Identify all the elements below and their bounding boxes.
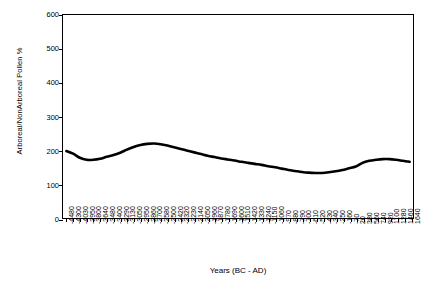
x-axis-tick-label: -520	[319, 210, 326, 224]
y-axis-tick-mark	[59, 220, 63, 221]
y-axis-tick-mark	[59, 117, 63, 118]
x-axis-tick-label: -610	[312, 210, 319, 224]
x-axis-tick-label: -3480	[109, 206, 116, 224]
y-axis-title: Arboreal/NonArboreal Pollen %	[14, 16, 26, 186]
y-axis-tick-label: 300	[46, 114, 59, 122]
x-axis-tick-label: -160	[346, 210, 353, 224]
x-axis-tick-label: 560	[373, 212, 380, 224]
y-axis-tick-label: 400	[46, 80, 59, 88]
y-axis-tick-label: 100	[46, 182, 59, 190]
x-axis-tick-label: 1640	[414, 208, 421, 224]
x-axis-tick-label: -4030	[82, 206, 89, 224]
x-axis-tick-label: -3400	[116, 206, 123, 224]
plot-area: 0100200300400500600	[62, 14, 414, 219]
y-axis-tick-label: 600	[46, 11, 59, 19]
x-axis-title: Years (BC - AD)	[62, 266, 414, 276]
x-axis-tick-label: 740	[380, 212, 387, 224]
x-axis-tick-label: 1460	[407, 208, 414, 224]
x-axis-tick-label: -2500	[170, 206, 177, 224]
y-axis-tick-mark	[59, 151, 63, 152]
x-axis-tick-label: -1780	[224, 206, 231, 224]
x-axis-tick-label: 1280	[400, 208, 407, 224]
pollen-line-chart: Arboreal/NonArboreal Pollen % 0100200300…	[0, 0, 445, 284]
y-axis-tick-label: 500	[46, 45, 59, 53]
x-axis-tick-label: -2950	[143, 206, 150, 224]
x-axis-tick-label: -970	[285, 210, 292, 224]
y-axis-tick-mark	[59, 185, 63, 186]
series-line	[63, 15, 413, 218]
y-axis-tick-mark	[59, 15, 63, 16]
y-axis-tick-label: 200	[46, 148, 59, 156]
x-axis-tick-label: -1690	[231, 206, 238, 224]
y-axis-tick-mark	[59, 49, 63, 50]
x-axis-tick-label: -3050	[136, 206, 143, 224]
x-axis-tick-label: -1330	[258, 206, 265, 224]
x-axis-tick-label: -2140	[197, 206, 204, 224]
x-axis-tick-label: -880	[292, 210, 299, 224]
y-axis-tick-mark	[59, 83, 63, 84]
x-axis-tick-label: -2050	[204, 206, 211, 224]
